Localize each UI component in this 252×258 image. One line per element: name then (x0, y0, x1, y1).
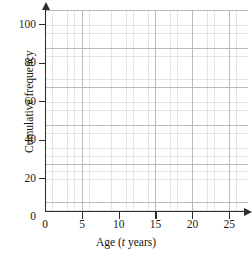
y-axis-tick (39, 178, 46, 179)
x-tick-label: 10 (107, 219, 131, 231)
x-tick-label: 0 (33, 219, 57, 231)
cumulative-frequency-chart: 100 80 60 40 20 0 0 5 10 15 20 25 Age (t… (0, 0, 252, 258)
arrow-right-icon (244, 208, 252, 216)
y-axis-tick (39, 140, 46, 141)
y-axis-tick (39, 24, 46, 25)
x-axis-title-suffix: years) (125, 236, 156, 248)
x-axis-title-prefix: Age ( (96, 236, 122, 248)
x-axis-line (45, 211, 248, 212)
y-axis-title: Cumulative frequency (24, 12, 36, 192)
x-tick-label: 20 (180, 219, 204, 231)
arrow-up-icon (42, 2, 50, 10)
plot-grid-area (45, 10, 248, 212)
x-tick-label: 15 (144, 219, 168, 231)
y-axis-line (45, 8, 46, 212)
x-tick-label: 25 (217, 219, 241, 231)
x-axis-title: Age (t years) (0, 236, 252, 249)
x-tick-label: 5 (70, 219, 94, 231)
y-axis-tick (39, 101, 46, 102)
y-axis-tick (39, 63, 46, 64)
